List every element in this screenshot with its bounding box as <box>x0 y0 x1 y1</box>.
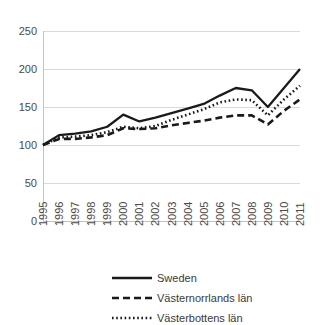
legend-item-v-sterbottens-l-n: Västerbottens län <box>112 312 243 324</box>
chart-legend: SwedenVästernorrlands länVästerbottens l… <box>112 272 252 324</box>
x-tick-label-1998: 1998 <box>85 202 97 226</box>
gridlines <box>43 31 300 221</box>
legend-label-0: Sweden <box>157 272 197 284</box>
x-tick-label-2005: 2005 <box>198 202 210 226</box>
x-tick-label-1999: 1999 <box>101 202 113 226</box>
x-tick-label-2004: 2004 <box>182 202 194 226</box>
series-line-v-sternorrlands-l-n <box>43 99 300 145</box>
x-tick-label-2006: 2006 <box>214 202 226 226</box>
x-tick-label-2002: 2002 <box>149 202 161 226</box>
x-tick-label-2007: 2007 <box>230 202 242 226</box>
x-tick-label-2008: 2008 <box>246 202 258 226</box>
y-tick-label-250: 250 <box>19 25 37 37</box>
x-tick-label-1995: 1995 <box>37 202 49 226</box>
x-tick-label-2003: 2003 <box>166 202 178 226</box>
y-axis: 050100150200250 <box>19 25 43 227</box>
y-tick-label-100: 100 <box>19 139 37 151</box>
y-tick-label-200: 200 <box>19 63 37 75</box>
legend-label-1: Västernorrlands län <box>157 292 252 304</box>
x-tick-label-2001: 2001 <box>133 202 145 226</box>
legend-item-sweden: Sweden <box>112 272 197 284</box>
legend-item-v-sternorrlands-l-n: Västernorrlands län <box>112 292 252 304</box>
x-tick-label-2010: 2010 <box>278 202 290 226</box>
x-axis: 1995199619971998199920002001200220032004… <box>37 202 306 226</box>
x-tick-label-2011: 2011 <box>294 202 306 226</box>
x-tick-label-1996: 1996 <box>53 202 65 226</box>
x-tick-label-2000: 2000 <box>117 202 129 226</box>
y-tick-label-50: 50 <box>25 177 37 189</box>
x-tick-label-1997: 1997 <box>69 202 81 226</box>
line-chart: 050100150200250 199519961997199819992000… <box>0 0 320 325</box>
series-line-v-sterbottens-l-n <box>43 86 300 145</box>
legend-label-2: Västerbottens län <box>157 312 243 324</box>
x-tick-label-2009: 2009 <box>262 202 274 226</box>
chart-canvas: 050100150200250 199519961997199819992000… <box>0 0 320 325</box>
y-tick-label-150: 150 <box>19 101 37 113</box>
